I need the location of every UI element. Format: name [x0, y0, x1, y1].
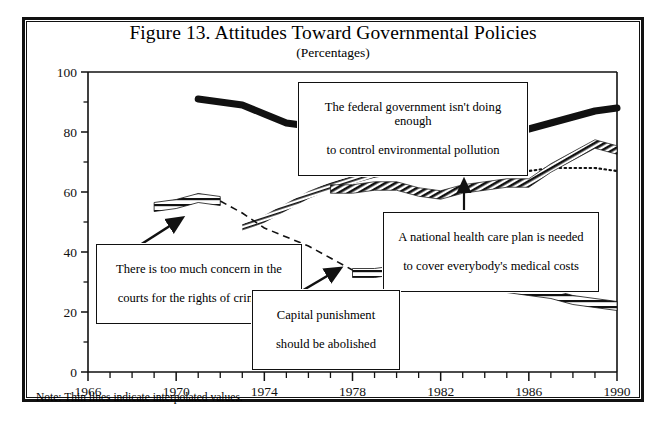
annotation-environment-line2: to control environmental pollution	[305, 143, 521, 158]
annotation-capital-punishment: Capital punishment should be abolished	[252, 290, 400, 370]
svg-text:60: 60	[64, 185, 78, 200]
svg-text:1982: 1982	[427, 384, 454, 399]
annotation-healthcare: A national health care plan is needed to…	[383, 212, 599, 292]
annotation-criminals-line1: There is too much concern in the	[103, 262, 295, 277]
figure-root: Figure 13. Attitudes Toward Governmental…	[0, 0, 666, 431]
svg-text:1986: 1986	[515, 384, 542, 399]
svg-text:40: 40	[64, 245, 78, 260]
annotation-healthcare-line2: to cover everybody's medical costs	[390, 259, 592, 274]
svg-text:20: 20	[64, 305, 78, 320]
figure-note: Note: Thin lines indicate interpolated v…	[36, 390, 243, 404]
svg-text:1990: 1990	[604, 384, 631, 399]
annotation-capital-line1: Capital punishment	[259, 308, 393, 323]
annotation-environment-line1: The federal government isn't doing enoug…	[305, 100, 521, 129]
svg-text:1978: 1978	[339, 384, 366, 399]
svg-text:80: 80	[64, 125, 78, 140]
svg-text:100: 100	[57, 65, 78, 80]
svg-text:1974: 1974	[251, 384, 278, 399]
annotation-healthcare-line1: A national health care plan is needed	[390, 230, 592, 245]
annotation-environment: The federal government isn't doing enoug…	[298, 82, 528, 176]
annotation-capital-line2: should be abolished	[259, 337, 393, 352]
svg-text:0: 0	[70, 365, 77, 380]
